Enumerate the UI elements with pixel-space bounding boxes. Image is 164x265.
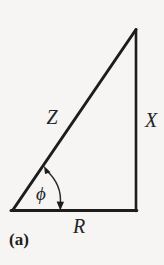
vertical-leg-label-X: X [140, 110, 162, 130]
angle-label-phi: ϕ [31, 184, 51, 203]
figure-container: Z X R ϕ (a) [0, 0, 164, 265]
hypotenuse-label-Z: Z [40, 107, 64, 127]
horizontal-leg-label-R: R [68, 216, 90, 236]
triangle-outline [11, 30, 137, 212]
figure-caption: (a) [9, 231, 29, 248]
